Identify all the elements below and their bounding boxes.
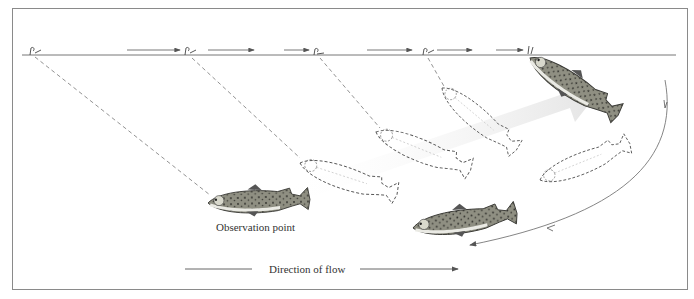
observation-point-label: Observation point <box>216 221 295 233</box>
fish-returning <box>411 196 520 243</box>
sight-lines <box>35 57 445 195</box>
direction-of-flow-label: Direction of flow <box>269 263 345 275</box>
trout-rise-diagram <box>0 0 694 299</box>
ghost-fish-4 <box>536 133 634 190</box>
fly-icons <box>30 46 533 55</box>
rise-direction-arrow <box>280 82 600 204</box>
